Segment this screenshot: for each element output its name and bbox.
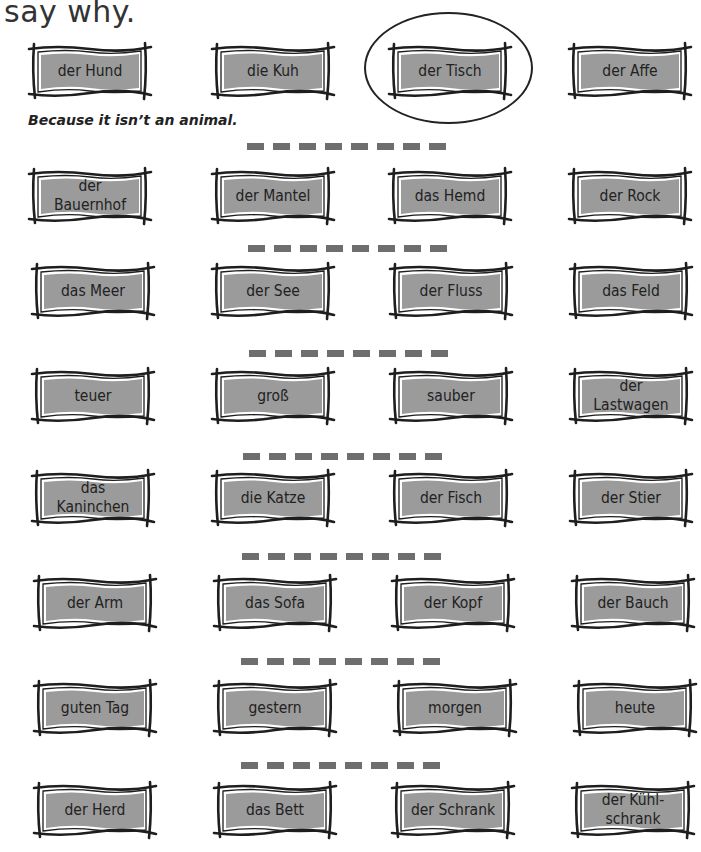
dash-icon	[248, 245, 265, 252]
dash-icon	[371, 658, 388, 665]
word-card[interactable]: der Kühl- schrank	[570, 782, 696, 838]
word-card-label: das Sofa	[220, 581, 330, 625]
dash-icon	[372, 553, 389, 560]
dash-icon	[300, 245, 317, 252]
answer-line[interactable]	[248, 245, 447, 252]
word-card[interactable]: die Kuh	[210, 43, 336, 99]
dash-icon	[431, 350, 448, 357]
dash-icon	[397, 762, 414, 769]
word-card[interactable]: der Tisch	[387, 43, 513, 99]
word-card[interactable]: die Katze	[210, 470, 336, 526]
dash-icon	[429, 143, 446, 150]
dash-icon	[325, 143, 342, 150]
word-card-label: der Affe	[575, 49, 685, 93]
word-card-label: das Bett	[220, 788, 330, 832]
word-card-label: der Mantel	[218, 174, 328, 218]
word-card-label: groß	[218, 374, 328, 418]
word-card-label: der Hund	[35, 49, 145, 93]
word-card-label: der See	[218, 269, 328, 313]
word-card[interactable]: der Rock	[567, 168, 693, 224]
word-card-label: der Stier	[576, 476, 686, 520]
word-card[interactable]: der Hund	[27, 43, 153, 99]
word-card[interactable]: das Bett	[212, 782, 338, 838]
word-card[interactable]: heute	[572, 680, 698, 736]
word-card-label: teuer	[38, 374, 148, 418]
word-card[interactable]: das Sofa	[212, 575, 338, 631]
dash-icon	[319, 762, 336, 769]
dash-icon	[327, 350, 344, 357]
word-card[interactable]: sauber	[388, 368, 514, 424]
dash-icon	[293, 762, 310, 769]
answer-line[interactable]	[249, 350, 448, 357]
dash-icon	[275, 350, 292, 357]
word-card[interactable]: der Kopf	[390, 575, 516, 631]
answer-line[interactable]	[241, 762, 440, 769]
word-card[interactable]: der Fisch	[388, 470, 514, 526]
dash-icon	[425, 453, 442, 460]
dash-icon	[269, 453, 286, 460]
word-card[interactable]: groß	[210, 368, 336, 424]
word-card-label: der Fisch	[396, 476, 506, 520]
dash-icon	[301, 350, 318, 357]
word-card[interactable]: der Affe	[567, 43, 693, 99]
dash-icon	[371, 762, 388, 769]
dash-icon	[326, 245, 343, 252]
dash-icon	[267, 762, 284, 769]
word-card[interactable]: das Hemd	[387, 168, 513, 224]
instruction-title: say why.	[4, 0, 136, 29]
dash-icon	[241, 762, 258, 769]
dash-icon	[249, 350, 266, 357]
word-card[interactable]: der Bauch	[570, 575, 696, 631]
word-card-label: der Kühl- schrank	[578, 788, 688, 832]
dash-icon	[294, 553, 311, 560]
dash-icon	[299, 143, 316, 150]
word-card[interactable]: der Fluss	[388, 263, 514, 319]
dash-icon	[268, 553, 285, 560]
example-answer: Because it isn’t an animal.	[28, 112, 238, 128]
answer-line[interactable]	[243, 453, 442, 460]
answer-line[interactable]	[242, 553, 441, 560]
dash-icon	[373, 453, 390, 460]
word-card[interactable]: das Kaninchen	[30, 470, 156, 526]
word-card[interactable]: der Herd	[32, 782, 158, 838]
word-card[interactable]: guten Tag	[32, 680, 158, 736]
word-card-label: der Herd	[40, 788, 150, 832]
dash-icon	[243, 453, 260, 460]
word-card[interactable]: morgen	[392, 680, 518, 736]
dash-icon	[295, 453, 312, 460]
dash-icon	[273, 143, 290, 150]
word-card[interactable]: der Bauernhof	[27, 168, 153, 224]
dash-icon	[346, 553, 363, 560]
answer-line[interactable]	[241, 658, 440, 665]
dash-icon	[321, 453, 338, 460]
word-card[interactable]: der Lastwagen	[568, 368, 694, 424]
dash-icon	[352, 245, 369, 252]
dash-icon	[347, 453, 364, 460]
word-card[interactable]: der Mantel	[210, 168, 336, 224]
word-card[interactable]: der Stier	[568, 470, 694, 526]
word-card[interactable]: gestern	[212, 680, 338, 736]
word-card-label: das Feld	[576, 269, 686, 313]
dash-icon	[353, 350, 370, 357]
word-card[interactable]: das Meer	[30, 263, 156, 319]
word-card[interactable]: der Arm	[32, 575, 158, 631]
dash-icon	[345, 658, 362, 665]
word-card[interactable]: das Feld	[568, 263, 694, 319]
word-card-label: morgen	[400, 686, 510, 730]
dash-icon	[267, 658, 284, 665]
dash-icon	[399, 453, 416, 460]
word-card[interactable]: teuer	[30, 368, 156, 424]
word-card-label: guten Tag	[40, 686, 150, 730]
word-card-label: das Kaninchen	[38, 476, 148, 520]
word-card-label: sauber	[396, 374, 506, 418]
dash-icon	[242, 553, 259, 560]
word-card-label: der Schrank	[398, 788, 508, 832]
dash-icon	[379, 350, 396, 357]
answer-line[interactable]	[247, 143, 446, 150]
dash-icon	[293, 658, 310, 665]
word-card[interactable]: der See	[210, 263, 336, 319]
word-card[interactable]: der Schrank	[390, 782, 516, 838]
word-card-label: der Arm	[40, 581, 150, 625]
dash-icon	[351, 143, 368, 150]
dash-icon	[405, 350, 422, 357]
